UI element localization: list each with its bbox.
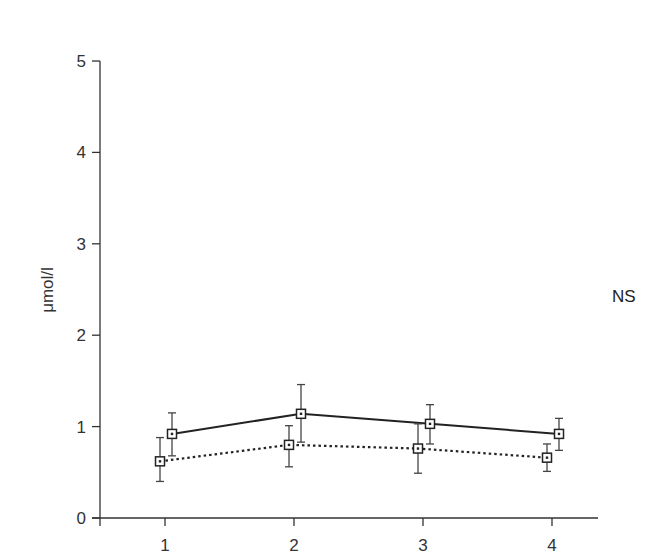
- data-point-center: [429, 423, 431, 425]
- series-dotted: [156, 424, 552, 482]
- data-point-center: [288, 444, 290, 446]
- data-point-center: [546, 456, 548, 458]
- y-tick-label: 2: [77, 326, 86, 345]
- x-tick-label: 2: [289, 536, 298, 555]
- data-point-center: [558, 433, 560, 435]
- data-point-center: [159, 460, 161, 462]
- data-point-center: [417, 447, 419, 449]
- y-ticks: 012345: [77, 52, 100, 528]
- y-tick-label: 5: [77, 52, 86, 71]
- x-tick-label: 3: [418, 536, 427, 555]
- series-layer: [156, 385, 564, 482]
- series-line-solid: [172, 414, 559, 434]
- y-axis-title: μmol/l: [38, 267, 57, 313]
- data-point-center: [300, 413, 302, 415]
- chart: 012345 1234 μmol/l NS: [0, 0, 668, 556]
- data-point-center: [171, 433, 173, 435]
- y-tick-label: 1: [77, 418, 86, 437]
- significance-annotation: NS: [612, 287, 636, 306]
- y-tick-label: 3: [77, 235, 86, 254]
- y-tick-label: 4: [77, 143, 86, 162]
- x-ticks: 1234: [160, 518, 556, 555]
- series-line-dotted: [160, 445, 547, 461]
- y-tick-label: 0: [77, 509, 86, 528]
- series-solid: [168, 385, 564, 456]
- x-tick-label: 1: [160, 536, 169, 555]
- x-tick-label: 4: [547, 536, 556, 555]
